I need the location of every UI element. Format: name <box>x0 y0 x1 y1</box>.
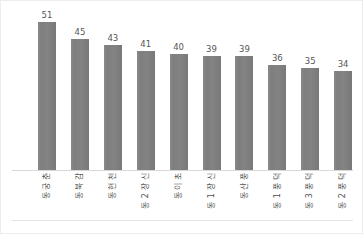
category-label-char: 춘 <box>42 172 52 182</box>
bar-value-label: 39 <box>239 44 250 54</box>
category-label-char: 산 <box>240 182 250 192</box>
bar[interactable] <box>137 51 155 170</box>
category-label[interactable]: 천현동 <box>104 172 122 222</box>
bar-slot: 41 <box>137 7 155 170</box>
bar[interactable] <box>170 54 188 170</box>
category-label-char: 동 <box>305 201 315 211</box>
bar-value-label: 34 <box>338 59 349 69</box>
bar-value-label: 45 <box>74 27 85 37</box>
category-label[interactable]: 풍산동 <box>235 172 253 222</box>
bar-value-label: 39 <box>206 44 217 54</box>
category-label-char: 풍 <box>305 182 315 192</box>
category-label-char: 이 <box>174 182 184 192</box>
category-label-char: 1 <box>207 191 217 201</box>
category-label-char: 풍 <box>273 182 283 192</box>
x-axis-line <box>12 170 353 171</box>
category-label-char: 현 <box>108 182 118 192</box>
category-label-char: 신 <box>141 172 151 182</box>
bar-slot: 35 <box>301 7 319 170</box>
category-label-char: 동 <box>75 191 85 201</box>
category-label[interactable]: 감북동 <box>71 172 89 222</box>
category-label-char: 풍 <box>338 182 348 192</box>
category-label[interactable]: 춘궁동 <box>38 172 56 222</box>
bar[interactable] <box>104 45 122 170</box>
category-label-char: 장 <box>141 182 151 192</box>
plot-area: 51454341403939363534 <box>12 7 353 170</box>
category-label-char: 동 <box>338 201 348 211</box>
category-label-char: 2 <box>338 191 348 201</box>
bar[interactable] <box>38 22 56 170</box>
bar[interactable] <box>334 71 352 170</box>
bar-value-label: 40 <box>173 42 184 52</box>
bar[interactable] <box>301 68 319 170</box>
bar[interactable] <box>71 39 89 170</box>
category-label-char: 궁 <box>42 182 52 192</box>
bar-slot: 39 <box>235 7 253 170</box>
category-label-char: 동 <box>42 191 52 201</box>
category-label[interactable]: 신장1동 <box>203 172 221 222</box>
category-label[interactable]: 덕풍3동 <box>301 172 319 222</box>
bar-slot: 34 <box>334 7 352 170</box>
category-label-char: 장 <box>207 182 217 192</box>
bar-slot: 51 <box>38 7 56 170</box>
category-label[interactable]: 초이동 <box>170 172 188 222</box>
bar-slot: 40 <box>170 7 188 170</box>
bar-value-label: 35 <box>305 56 316 66</box>
category-label-char: 덕 <box>273 172 283 182</box>
category-label-char: 북 <box>75 182 85 192</box>
category-label-char: 2 <box>141 191 151 201</box>
category-label-char: 신 <box>207 172 217 182</box>
bar-value-label: 36 <box>272 53 283 63</box>
category-labels: 춘궁동감북동천현동신장2동초이동신장1동풍산동덕풍1동덕풍3동덕풍2동 <box>12 172 353 222</box>
category-label-char: 풍 <box>240 172 250 182</box>
category-label-char: 동 <box>240 191 250 201</box>
category-label-char: 동 <box>141 201 151 211</box>
category-label-char: 동 <box>174 191 184 201</box>
bar-slot: 36 <box>268 7 286 170</box>
category-label[interactable]: 덕풍2동 <box>334 172 352 222</box>
bar-slot: 45 <box>71 7 89 170</box>
category-label[interactable]: 신장2동 <box>137 172 155 222</box>
bar-value-label: 43 <box>107 33 118 43</box>
bar-slot: 39 <box>203 7 221 170</box>
category-label-char: 동 <box>108 191 118 201</box>
category-label-char: 감 <box>75 172 85 182</box>
bar[interactable] <box>203 56 221 170</box>
bar-value-label: 51 <box>42 10 53 20</box>
category-label-char: 덕 <box>338 172 348 182</box>
bar-value-label: 41 <box>140 39 151 49</box>
category-label-char: 초 <box>174 172 184 182</box>
category-label-char: 덕 <box>305 172 315 182</box>
category-label-char: 1 <box>273 191 283 201</box>
category-label-char: 동 <box>273 201 283 211</box>
category-label-char: 동 <box>207 201 217 211</box>
category-label[interactable]: 덕풍1동 <box>268 172 286 222</box>
bar[interactable] <box>268 65 286 170</box>
bar-chart: 51454341403939363534 춘궁동감북동천현동신장2동초이동신장1… <box>0 0 363 234</box>
category-label-char: 3 <box>305 191 315 201</box>
bottom-rule <box>12 220 353 221</box>
bar[interactable] <box>235 56 253 170</box>
category-label-char: 천 <box>108 172 118 182</box>
bar-slot: 43 <box>104 7 122 170</box>
